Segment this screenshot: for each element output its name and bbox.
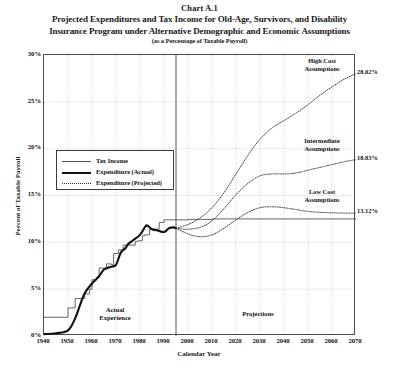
annotation-high-cost: High Cost Assumptions bbox=[291, 57, 353, 72]
chart-number: Chart A.1 bbox=[0, 3, 399, 13]
chart-title: Projected Expenditures and Tax Income fo… bbox=[10, 14, 389, 37]
chart-legend: Tax Income Expenditure (Actual) Expendit… bbox=[56, 150, 174, 190]
y-axis-title: Percent of Taxable Payroll bbox=[14, 126, 22, 266]
annotation-intermediate: Intermediate Assumptions bbox=[289, 137, 355, 152]
y-tick-5: 5% bbox=[11, 284, 41, 291]
end-value-high-cost: 28.02% bbox=[357, 68, 378, 75]
x-tick-2070: 2070 bbox=[338, 337, 372, 344]
legend-item-tax-income: Tax Income bbox=[62, 155, 169, 166]
data-series bbox=[44, 74, 356, 335]
chart-subtitle: (as a Percentage of Taxable Payroll) bbox=[0, 37, 399, 44]
end-value-low-cost: 13.12% bbox=[357, 207, 378, 214]
period-label-actual: Actual Experience bbox=[85, 306, 145, 322]
y-tick-25: 25% bbox=[11, 97, 41, 104]
legend-swatch-thick-line-icon bbox=[62, 168, 91, 176]
legend-item-expenditure-actual: Expenditure (Actual) bbox=[62, 166, 169, 177]
legend-label-expenditure-actual: Expenditure (Actual) bbox=[96, 168, 154, 175]
y-tick-30: 30% bbox=[11, 50, 41, 57]
annotation-low-cost: Low Cost Assumptions bbox=[291, 188, 353, 203]
series-line-tax-income bbox=[44, 219, 356, 317]
chart-title-line1: Projected Expenditures and Tax Income fo… bbox=[10, 14, 389, 26]
legend-label-expenditure-projected: Expenditure (Projected) bbox=[96, 179, 162, 186]
period-label-projections: Projections bbox=[228, 310, 288, 318]
legend-label-tax-income: Tax Income bbox=[96, 157, 128, 164]
chart-title-line2: Insurance Program under Alternative Demo… bbox=[10, 26, 389, 38]
chart-page: Chart A.1 Projected Expenditures and Tax… bbox=[0, 0, 399, 377]
legend-item-expenditure-projected: Expenditure (Projected) bbox=[62, 177, 169, 188]
y-axis: 30% 25% 20% 15% 10% 5% 0% bbox=[5, 0, 41, 377]
x-axis-title: Calendar Year bbox=[43, 350, 355, 358]
legend-swatch-thin-line-icon bbox=[62, 157, 91, 165]
legend-swatch-dotted-line-icon bbox=[62, 179, 91, 187]
series-line-low-cost-assumptions bbox=[176, 207, 356, 237]
end-value-intermediate: 18.83% bbox=[357, 154, 378, 161]
